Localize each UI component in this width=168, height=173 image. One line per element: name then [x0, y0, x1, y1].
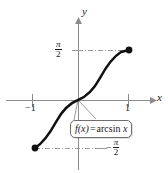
x-tick-label-neg1: −1 — [25, 103, 36, 113]
y-tick-label-neg-pi-over-2: − π 2 — [106, 138, 119, 158]
callout-leader-lines — [74, 100, 96, 120]
endpoint-upper-right — [126, 47, 133, 54]
callout-expression-variable: x — [123, 123, 127, 134]
callout-function-argument: (x) — [78, 123, 89, 134]
function-callout-box: f(x)=arcsin x — [70, 120, 132, 138]
arcsin-graph-figure: y x −1 1 π 2 − π 2 f(x)=arcsin x — [0, 0, 168, 173]
x-tick-label-1: 1 — [125, 103, 130, 113]
endpoint-lower-left — [32, 145, 39, 152]
y-axis — [75, 17, 82, 170]
fraction-denominator: 2 — [113, 148, 120, 157]
callout-equals-sign: = — [89, 123, 97, 134]
plot-canvas — [0, 0, 168, 173]
fraction-pi-over-2-negative: π 2 — [113, 138, 120, 158]
fraction-denominator: 2 — [55, 50, 62, 59]
y-tick-label-pi-over-2: π 2 — [55, 40, 62, 60]
x-axis-label: x — [157, 92, 162, 103]
fraction-pi-over-2: π 2 — [55, 40, 62, 60]
y-axis-label: y — [82, 6, 87, 17]
minus-sign: − — [106, 143, 112, 153]
callout-expression-name: arcsin — [97, 123, 121, 134]
